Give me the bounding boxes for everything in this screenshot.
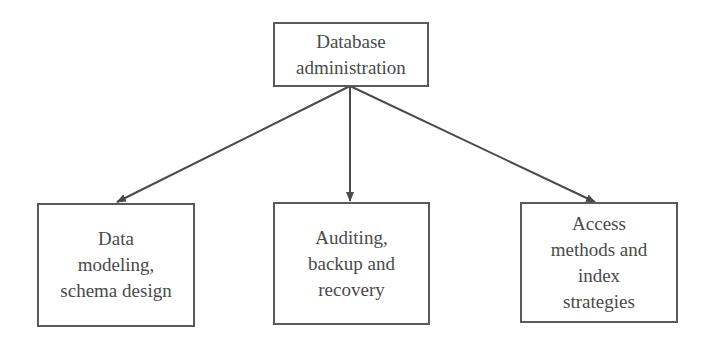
arrow-root-to-data-modeling [117,86,350,202]
node-access-methods-index-strategies: Access methods and index strategies [520,202,678,323]
node-label-line: backup and [308,251,395,277]
node-label-line: index [551,263,648,289]
node-database-administration: Database administration [273,22,429,87]
node-label-line: administration [296,55,406,81]
node-label-line: schema design [60,278,171,304]
node-data-modeling: Data modeling, schema design [37,203,195,327]
node-label-line: Auditing, [308,225,395,251]
node-label-line: Database [296,29,406,55]
node-auditing-backup-recovery: Auditing, backup and recovery [273,202,430,325]
node-label-line: Access [551,211,648,237]
node-label-line: strategies [551,289,648,315]
arrow-root-to-access-methods [350,86,595,202]
node-label-line: modeling, [60,252,171,278]
node-label-line: methods and [551,237,648,263]
node-label-line: Data [60,226,171,252]
node-label-line: recovery [308,277,395,303]
